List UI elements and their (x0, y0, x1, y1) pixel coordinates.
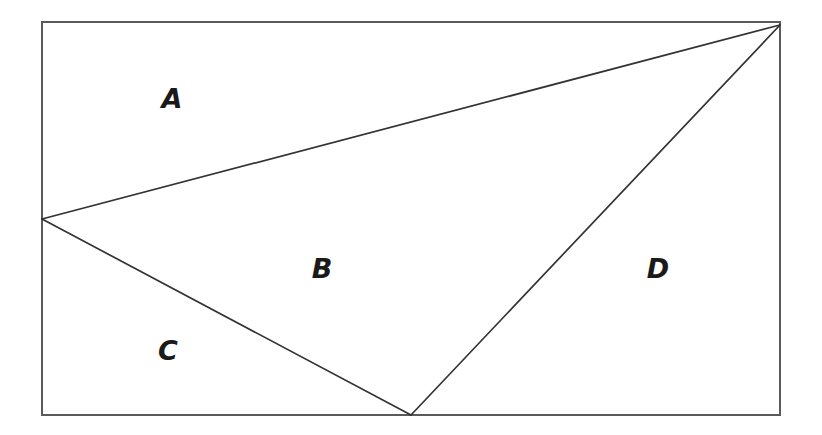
right-diagonal-line (411, 25, 780, 415)
region-label-a: A (162, 85, 183, 112)
region-label-c: C (158, 337, 178, 364)
diagram-svg (0, 0, 822, 435)
lower-left-diagonal-line (42, 219, 411, 415)
region-label-b: B (312, 255, 333, 282)
region-label-d: D (647, 255, 669, 282)
diagram-canvas: A B C D (0, 0, 822, 435)
upper-diagonal-line (42, 25, 780, 219)
outer-rectangle (42, 22, 780, 415)
